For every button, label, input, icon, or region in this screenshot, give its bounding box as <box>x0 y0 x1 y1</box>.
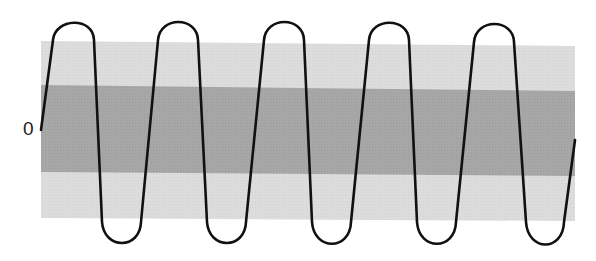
zero-baseline-label: 0 <box>23 119 34 139</box>
diagram-canvas <box>0 0 596 261</box>
